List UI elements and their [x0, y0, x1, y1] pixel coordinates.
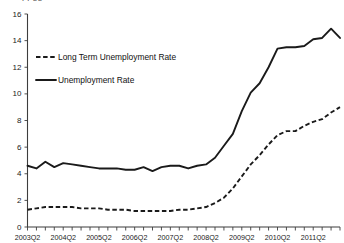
series-line-unemployment: [28, 29, 341, 171]
series-line-long-term-unemployment: [28, 107, 341, 211]
x-tick-label: 2010Q2: [265, 233, 291, 242]
y-tick-label: 14: [13, 36, 22, 45]
x-tick-label: 2003Q2: [15, 233, 41, 242]
legend-label: Unemployment Rate: [58, 75, 135, 85]
x-tick-label: 2007Q2: [158, 233, 184, 242]
x-tick-label: 2011Q2: [301, 233, 326, 242]
y-tick-label: 6: [17, 143, 22, 152]
chart-legend: Long Term Unemployment RateUnemployment …: [36, 52, 176, 85]
y-tick-label: 4: [17, 169, 22, 178]
y-tick-label: 2: [17, 196, 22, 205]
x-tick-label: 2004Q2: [50, 233, 76, 242]
chart-canvas: 0246810121416 2003Q22004Q22005Q22006Q220…: [0, 0, 344, 243]
x-tick-label: 2006Q2: [122, 233, 148, 242]
x-tick-label: 2009Q2: [229, 233, 255, 242]
y-tick-label: 16: [13, 10, 22, 19]
x-tick-label: 2008Q2: [193, 233, 219, 242]
y-axis: 0246810121416: [13, 10, 28, 232]
unemployment-line-chart: ppgg 0246810121416 2003Q22004Q22005Q2200…: [0, 0, 344, 243]
x-tick-label: 2005Q2: [86, 233, 112, 242]
legend-label: Long Term Unemployment Rate: [58, 52, 176, 62]
y-tick-label: 10: [13, 89, 22, 98]
y-tick-label: 12: [13, 63, 22, 72]
y-tick-label: 8: [17, 116, 22, 125]
x-axis: 2003Q22004Q22005Q22006Q22007Q22008Q22009…: [15, 227, 340, 242]
y-tick-label: 0: [17, 223, 22, 232]
